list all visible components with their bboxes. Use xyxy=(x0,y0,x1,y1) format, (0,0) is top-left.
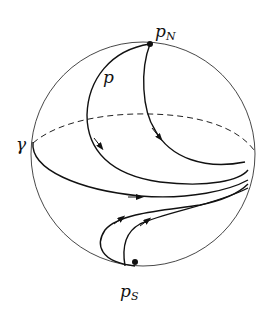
north-pole-label: pN xyxy=(155,21,176,43)
south-pole-label: pS xyxy=(120,281,139,303)
trajectory-from-north-right xyxy=(144,44,245,164)
arrow-north-right xyxy=(152,128,160,138)
south-pole-point xyxy=(132,259,138,265)
arrow-south-left xyxy=(114,218,122,224)
gamma-label: γ xyxy=(16,134,27,154)
dashed-equator-back xyxy=(33,114,254,150)
sphere-outline xyxy=(31,42,255,266)
trajectory-from-north-via-p xyxy=(87,44,248,184)
trajectory-gamma xyxy=(33,142,248,197)
trajectory-from-south-right xyxy=(124,188,248,266)
sphere-diagram: pN p γ pS xyxy=(0,0,266,309)
north-pole-point xyxy=(147,41,153,47)
point-p-label: p xyxy=(103,67,114,87)
